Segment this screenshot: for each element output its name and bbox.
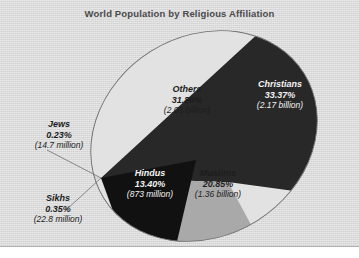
pie-label-hindus-name: Hindus xyxy=(107,168,193,179)
pie-label-jews: Jews 0.23% (14.7 million) xyxy=(13,119,105,150)
pie-label-sikhs-percent: 0.35% xyxy=(11,204,105,215)
chart-figure: World Population by Religious Affiliatio… xyxy=(0,0,359,258)
pie-label-jews-percent: 0.23% xyxy=(13,130,105,141)
pie-label-christians-population: (2.17 billion) xyxy=(235,100,325,110)
pie-label-others-population: (2.03 billion) xyxy=(142,105,232,115)
pie-label-others-percent: 31.80% xyxy=(142,95,232,106)
bottom-margin xyxy=(0,247,359,258)
pie-label-jews-name: Jews xyxy=(13,119,105,130)
pie-label-sikhs-population: (22.8 million) xyxy=(11,214,105,224)
pie-label-others: Others 31.80% (2.03 billion) xyxy=(142,84,232,115)
pie-label-others-name: Others xyxy=(142,84,232,95)
pie-label-christians-name: Christians xyxy=(235,79,325,90)
pie-label-christians: Christians 33.37% (2.17 billion) xyxy=(235,79,325,110)
pie-label-sikhs: Sikhs 0.35% (22.8 million) xyxy=(11,193,105,224)
pie-label-sikhs-name: Sikhs xyxy=(11,193,105,204)
pie-label-hindus-population: (873 million) xyxy=(107,189,193,199)
pie-label-jews-population: (14.7 million) xyxy=(13,140,105,150)
pie-label-hindus-percent: 13.40% xyxy=(107,179,193,190)
pie-label-hindus: Hindus 13.40% (873 million) xyxy=(107,168,193,199)
pie-label-christians-percent: 33.37% xyxy=(235,90,325,101)
